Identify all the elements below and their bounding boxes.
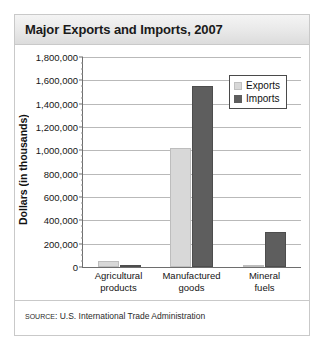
y-axis-tick-label: 1,800,000 — [36, 52, 78, 63]
bar-imports — [192, 86, 213, 267]
bar-group — [98, 57, 141, 267]
source-prefix: SOURCE — [25, 313, 55, 320]
chart-figure: Major Exports and Imports, 2007 Dollars … — [14, 14, 310, 336]
legend-item-exports: Exports — [234, 79, 280, 92]
legend-swatch-imports — [234, 95, 242, 103]
y-axis-tick-label: 1,200,000 — [36, 121, 78, 132]
bar-imports — [265, 232, 286, 267]
y-axis-tick-label: 1,000,000 — [36, 145, 78, 156]
y-axis-tick-label: 0 — [73, 262, 78, 273]
legend-item-imports: Imports — [234, 92, 280, 105]
y-axis-label: Dollars (in thousands) — [15, 95, 31, 245]
y-axis-tick-label: 800,000 — [44, 168, 78, 179]
y-axis-tick-label: 400,000 — [44, 215, 78, 226]
x-axis-category-label: Agriculturalproducts — [82, 270, 155, 293]
page-title: Major Exports and Imports, 2007 — [25, 22, 223, 37]
y-axis-tick-label: 1,400,000 — [36, 98, 78, 109]
legend-label-imports: Imports — [246, 93, 279, 104]
plot-area: 0200,000400,000600,000800,0001,000,0001,… — [82, 57, 301, 268]
bar-exports — [243, 265, 264, 267]
bar-imports — [120, 265, 141, 267]
chart-body: Dollars (in thousands) 0200,000400,00060… — [15, 45, 309, 301]
legend-swatch-exports — [234, 82, 242, 90]
bar-exports — [170, 148, 191, 267]
source-bar: SOURCE: U.S. International Trade Adminis… — [15, 300, 309, 335]
source-note: SOURCE: U.S. International Trade Adminis… — [25, 311, 205, 321]
bar-exports — [98, 261, 119, 267]
title-band: Major Exports and Imports, 2007 — [15, 15, 309, 45]
chart-legend: Exports Imports — [229, 75, 287, 109]
bar-group — [170, 57, 213, 267]
y-axis-tick-label: 200,000 — [44, 238, 78, 249]
category-labels: AgriculturalproductsManufacturedgoodsMin… — [82, 270, 301, 293]
legend-label-exports: Exports — [246, 80, 280, 91]
x-axis-category-label: Mineralfuels — [228, 270, 301, 293]
y-axis-tick-label: 1,600,000 — [36, 75, 78, 86]
x-axis-category-label: Manufacturedgoods — [155, 270, 228, 293]
y-axis-tick-label: 600,000 — [44, 191, 78, 202]
